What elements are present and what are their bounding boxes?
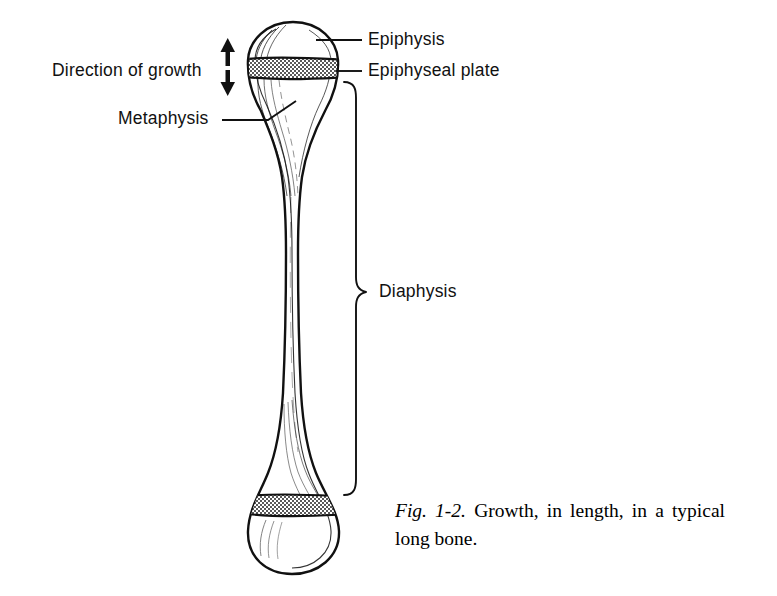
diaphysis-brace bbox=[344, 82, 366, 495]
label-diaphysis: Diaphysis bbox=[379, 283, 457, 301]
direction-of-growth-arrows bbox=[221, 38, 236, 96]
label-epiphysis: Epiphysis bbox=[368, 31, 445, 49]
figure-number: Fig. 1-2. bbox=[395, 500, 466, 521]
figure-caption: Fig. 1-2. Growth, in length, in a typica… bbox=[395, 497, 725, 552]
label-epiphyseal-plate: Epiphyseal plate bbox=[368, 62, 500, 80]
growth-arrow-up bbox=[221, 38, 236, 66]
growth-arrow-down bbox=[221, 70, 236, 96]
long-bone-illustration bbox=[240, 22, 350, 574]
proximal-epiphyseal-plate bbox=[240, 57, 348, 79]
label-metaphysis: Metaphysis bbox=[118, 110, 209, 128]
label-direction-of-growth: Direction of growth bbox=[52, 62, 202, 80]
bone-outline bbox=[248, 22, 339, 574]
figure-container: Epiphysis Epiphyseal plate Diaphysis Dir… bbox=[0, 0, 777, 596]
